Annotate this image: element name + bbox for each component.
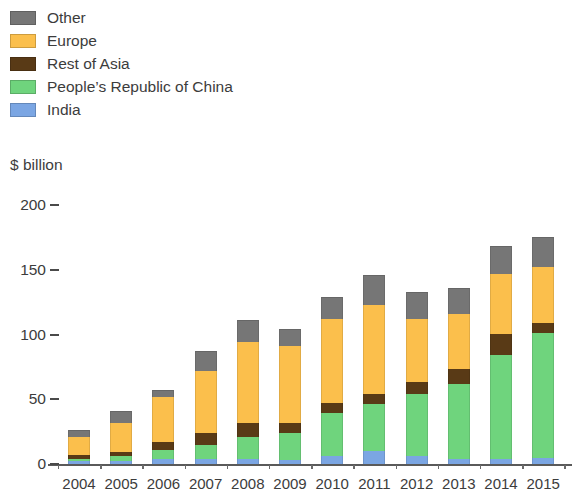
x-axis-tick-mark: [311, 465, 313, 469]
bar-2008: [237, 320, 259, 464]
bar-segment: [195, 459, 217, 464]
bar-segment: [321, 413, 343, 456]
bar-segment: [195, 371, 217, 433]
bar-segment: [532, 267, 554, 323]
bar-segment: [237, 459, 259, 464]
x-axis-tick-label: 2008: [231, 475, 264, 492]
stacked-bar-chart-plot: 0501001502002004200520062007200820092010…: [0, 0, 576, 494]
bar-segment: [490, 246, 512, 273]
x-axis-tick-label: 2004: [62, 475, 95, 492]
bar-segment: [152, 459, 174, 464]
bar-segment: [363, 451, 385, 464]
bar-2010: [321, 297, 343, 464]
bar-2006: [152, 390, 174, 464]
bar-segment: [237, 423, 259, 437]
bar-segment: [448, 314, 470, 370]
bar-segment: [490, 355, 512, 459]
bar-segment: [363, 394, 385, 404]
bar-segment: [110, 461, 132, 464]
y-axis-tick-mark: [50, 334, 59, 336]
bar-segment: [152, 397, 174, 442]
bar-segment: [448, 288, 470, 314]
bar-2015: [532, 237, 554, 464]
bar-segment: [363, 404, 385, 451]
x-axis-tick-label: 2011: [358, 475, 390, 492]
x-axis-tick-mark: [396, 465, 398, 469]
bar-2014: [490, 246, 512, 464]
bar-segment: [237, 320, 259, 342]
x-axis-tick-label: 2007: [189, 475, 222, 492]
bar-segment: [490, 459, 512, 464]
bar-segment: [279, 346, 301, 422]
y-axis-tick-mark: [50, 269, 59, 271]
bar-segment: [363, 305, 385, 394]
bar-segment: [321, 403, 343, 413]
x-axis-baseline: [48, 464, 572, 466]
x-axis-tick-mark: [100, 465, 102, 469]
bar-segment: [68, 437, 90, 455]
bar-segment: [321, 297, 343, 319]
bar-2011: [363, 275, 385, 464]
x-axis-tick-mark: [438, 465, 440, 469]
y-axis-tick-label: 0: [0, 455, 46, 473]
x-axis-tick-mark: [564, 465, 566, 469]
x-axis-tick-mark: [142, 465, 144, 469]
x-axis-tick-label: 2013: [442, 475, 475, 492]
x-axis-tick-mark: [522, 465, 524, 469]
bar-2007: [195, 351, 217, 464]
x-axis-tick-label: 2012: [400, 475, 433, 492]
bar-segment: [532, 458, 554, 464]
bar-segment: [279, 460, 301, 464]
x-axis-tick-mark: [58, 465, 60, 469]
bar-segment: [532, 323, 554, 333]
bar-segment: [448, 369, 470, 383]
bar-segment: [363, 275, 385, 305]
x-axis-tick-label: 2005: [105, 475, 138, 492]
bar-segment: [195, 351, 217, 370]
y-axis-tick-label: 200: [0, 196, 46, 214]
bar-segment: [406, 292, 428, 319]
bar-segment: [448, 459, 470, 464]
bar-segment: [195, 433, 217, 445]
bar-segment: [406, 382, 428, 394]
bar-segment: [532, 333, 554, 457]
bar-segment: [406, 394, 428, 456]
y-axis-tick-mark: [50, 398, 59, 400]
bar-segment: [321, 456, 343, 464]
bar-segment: [152, 442, 174, 450]
bar-2013: [448, 288, 470, 464]
bar-segment: [68, 461, 90, 464]
bar-segment: [279, 423, 301, 433]
y-axis-tick-label: 100: [0, 326, 46, 344]
x-axis-tick-mark: [269, 465, 271, 469]
x-axis-tick-label: 2006: [147, 475, 180, 492]
bar-2005: [110, 411, 132, 464]
bar-2004: [68, 430, 90, 464]
bar-segment: [237, 437, 259, 459]
bar-segment: [406, 319, 428, 382]
y-axis-tick-label: 50: [0, 390, 46, 408]
bar-2009: [279, 329, 301, 464]
bar-segment: [532, 237, 554, 267]
bar-segment: [406, 456, 428, 464]
bar-segment: [448, 384, 470, 459]
bar-segment: [279, 433, 301, 460]
bar-segment: [490, 334, 512, 355]
x-axis-tick-mark: [353, 465, 355, 469]
bar-segment: [279, 329, 301, 346]
bar-segment: [321, 319, 343, 403]
x-axis-tick-label: 2010: [316, 475, 349, 492]
bar-segment: [490, 274, 512, 335]
bar-segment: [110, 423, 132, 453]
x-axis-tick-label: 2015: [527, 475, 560, 492]
bar-segment: [237, 342, 259, 422]
bar-2012: [406, 292, 428, 464]
bar-segment: [110, 411, 132, 423]
x-axis-tick-mark: [480, 465, 482, 469]
x-axis-tick-mark: [185, 465, 187, 469]
x-axis-tick-mark: [227, 465, 229, 469]
x-axis-tick-label: 2014: [484, 475, 517, 492]
x-axis-tick-label: 2009: [273, 475, 306, 492]
bar-segment: [195, 445, 217, 459]
y-axis-tick-label: 150: [0, 261, 46, 279]
